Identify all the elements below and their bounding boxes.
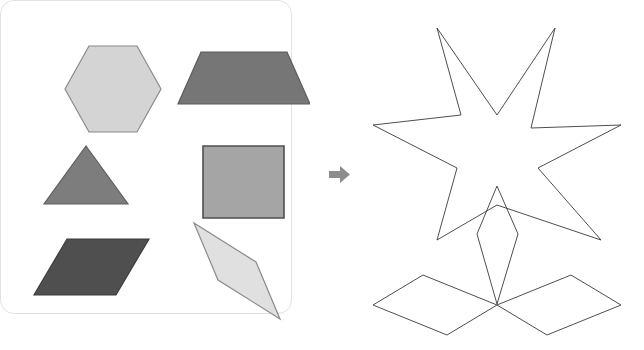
- shape-square[interactable]: [203, 146, 284, 218]
- shape-trapezoid[interactable]: [178, 52, 310, 104]
- shape-palette-container: [18, 19, 310, 333]
- assembled-figure-svg: [360, 10, 636, 340]
- assembly-right-parallelogram[interactable]: [497, 275, 621, 335]
- assembled-figure-container: [360, 10, 636, 340]
- shape-hexagon[interactable]: [65, 46, 161, 132]
- arrow-right-icon: [326, 162, 354, 188]
- shape-palette-svg: [18, 19, 310, 333]
- shape-thin-rhombus[interactable]: [194, 223, 280, 319]
- shape-parallelogram[interactable]: [34, 239, 149, 295]
- shape-triangle[interactable]: [44, 146, 128, 204]
- connector-arrow-container: [326, 162, 354, 188]
- assembly-six-point-star[interactable]: [373, 28, 621, 240]
- assembly-left-parallelogram[interactable]: [373, 275, 497, 335]
- arrow-right-glyph: [329, 166, 350, 183]
- figure-root: [0, 0, 644, 350]
- assembly-center-rhombus[interactable]: [477, 186, 518, 304]
